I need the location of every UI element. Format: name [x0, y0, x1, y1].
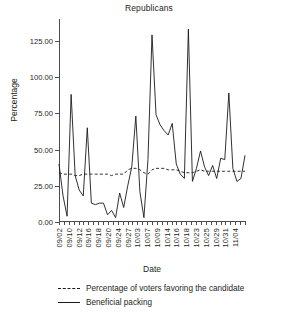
- x-tick-label: 09/02: [55, 228, 64, 248]
- x-tick-label: 09/12: [75, 228, 84, 248]
- y-tick-label: 75.00: [34, 109, 53, 118]
- series-lines: [59, 19, 245, 222]
- x-tick-label: 09/27: [124, 228, 133, 248]
- x-tick-label: 10/23: [192, 228, 201, 248]
- y-tick-label: 100.00: [30, 73, 53, 82]
- x-tick-label: 10/07: [143, 228, 152, 248]
- x-tick-label: 09/18: [94, 228, 103, 248]
- x-tick: [245, 221, 246, 225]
- x-axis-title: Date: [59, 264, 245, 274]
- chart-legend: Percentage of voters favoring the candid…: [58, 281, 288, 309]
- chart-title: Republicans: [0, 3, 298, 13]
- legend-item: Percentage of voters favoring the candid…: [58, 281, 288, 295]
- x-tick-label: 09/20: [104, 228, 113, 248]
- x-tick-label: 09/24: [114, 228, 123, 248]
- x-tick-label: 10/09: [153, 228, 162, 248]
- legend-item: Beneficial packing: [58, 295, 288, 309]
- plot-area: 0.0025.0050.0075.00100.00125.00 09/0209/…: [59, 19, 245, 222]
- x-tick-label: 10/29: [212, 228, 221, 248]
- y-tick-label: 50.00: [34, 145, 53, 154]
- x-tick-label: 10/14: [163, 228, 172, 248]
- x-tick-label: 10/25: [202, 228, 211, 248]
- y-tick-label: 25.00: [34, 181, 53, 190]
- line-beneficial-packing: [59, 29, 245, 218]
- legend-item-label: Percentage of voters favoring the candid…: [86, 284, 244, 293]
- chart-container: Republicans Percentage 0.0025.0050.0075.…: [0, 0, 298, 313]
- legend-line-swatch: [58, 284, 80, 293]
- y-axis-title: Percentage: [9, 60, 19, 140]
- x-tick-label: 10/18: [182, 228, 191, 248]
- x-tick-label: 09/10: [65, 228, 74, 248]
- x-tick-label: 10/31: [221, 228, 230, 248]
- x-tick-label: 11/04: [231, 228, 240, 247]
- y-tick-label: 125.00: [30, 36, 53, 45]
- x-tick-label: 09/16: [84, 228, 93, 248]
- x-tick-label: 10/03: [133, 228, 142, 248]
- x-tick-label: 10/16: [172, 228, 181, 248]
- legend-line-swatch: [58, 298, 80, 307]
- legend-item-label: Beneficial packing: [86, 298, 152, 307]
- y-tick-label: 0.00: [38, 218, 53, 227]
